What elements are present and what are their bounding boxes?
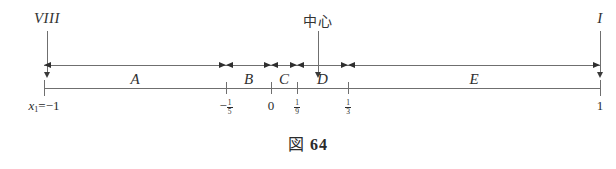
- segment-arrowhead-left-A: [44, 62, 51, 68]
- callout-label-center: 中心: [258, 10, 378, 30]
- segment-label-A: A: [105, 71, 165, 88]
- axis-tick-3: [297, 82, 298, 94]
- axis-tick-label-4: 13: [288, 98, 408, 115]
- axis-tick-1: [226, 82, 227, 94]
- number-line-figure: VIII中心I ABCDE x1=−1−15019131 図 64: [0, 0, 616, 169]
- caption-symbol: 図: [288, 136, 305, 153]
- segment-arrowhead-left-C: [271, 62, 278, 68]
- segment-measure-line-A: [44, 65, 226, 66]
- axis-tick-2: [271, 82, 272, 94]
- axis-tick-0: [44, 80, 45, 96]
- segment-label-E: E: [444, 71, 504, 88]
- segment-label-D: D: [293, 71, 353, 88]
- segment-arrowhead-left-E: [348, 62, 355, 68]
- segment-arrowhead-right-B: [264, 62, 271, 68]
- axis-tick-4: [348, 82, 349, 94]
- figure-caption: 図 64: [0, 131, 616, 155]
- axis-line: [44, 88, 600, 89]
- segment-measure-line-E: [348, 65, 600, 66]
- segment-arrowhead-right-C: [290, 62, 297, 68]
- callout-drop-arrowhead-right: [597, 72, 603, 78]
- segment-arrowhead-right-A: [219, 62, 226, 68]
- callout-label-left: VIII: [0, 10, 107, 27]
- axis-tick-5: [600, 80, 601, 96]
- segment-arrowhead-left-D: [297, 62, 304, 68]
- callout-drop-line-center: [318, 31, 319, 73]
- value-text: =−1: [38, 98, 59, 113]
- fraction-denominator: 3: [345, 108, 351, 116]
- callout-label-right: I: [540, 10, 616, 27]
- variable-subscript: 1: [34, 105, 38, 114]
- callout-drop-line-right: [600, 31, 601, 73]
- segment-arrowhead-right-D: [341, 62, 348, 68]
- axis-tick-label-5: 1: [540, 98, 616, 114]
- fraction: 13: [345, 99, 351, 116]
- caption-number: 64: [310, 136, 328, 153]
- callout-drop-arrowhead-left: [44, 72, 50, 78]
- axis-tick-label-0: x1=−1: [0, 98, 104, 114]
- segment-arrowhead-left-B: [226, 62, 233, 68]
- segment-arrowhead-right-E: [593, 62, 600, 68]
